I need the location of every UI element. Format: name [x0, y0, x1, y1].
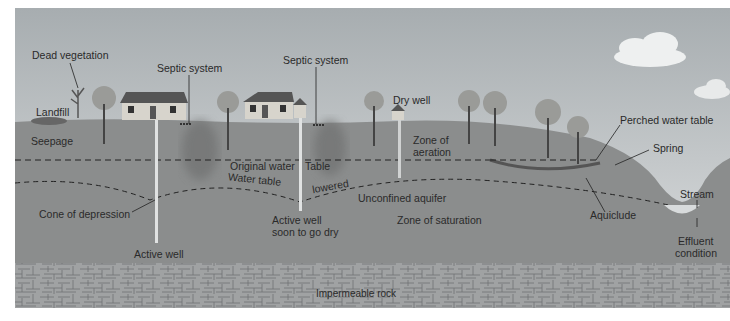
- house-icon: [120, 92, 188, 120]
- label-original-water-table-2: Table: [305, 160, 330, 172]
- label-zone-of-saturation: Zone of saturation: [397, 214, 482, 226]
- groundwater-diagram: Dead vegetation Landfill Seepage Septic …: [0, 0, 730, 321]
- label-impermeable-rock: Impermeable rock: [316, 288, 396, 300]
- label-active-well-dry-2: soon to go dry: [272, 226, 339, 238]
- label-septic-system-1: Septic system: [157, 62, 222, 74]
- label-dead-vegetation: Dead vegetation: [32, 49, 108, 61]
- label-spring: Spring: [653, 142, 683, 154]
- active-well-going-dry: [299, 108, 302, 211]
- impermeable-rock-layer: [15, 263, 730, 308]
- label-active-well: Active well: [134, 248, 184, 260]
- label-septic-system-2: Septic system: [283, 54, 348, 66]
- label-zone-of-aeration-2: aeration: [413, 146, 451, 158]
- label-zone-of-aeration-1: Zone of: [413, 134, 449, 146]
- label-effluent-1: Effluent: [678, 235, 713, 247]
- dry-well: [398, 112, 401, 178]
- label-effluent-2: condition: [675, 247, 717, 259]
- label-perched-water-table: Perched water table: [620, 114, 713, 126]
- label-cone-of-depression: Cone of depression: [39, 208, 130, 220]
- label-original-water-table-1: Original water: [230, 160, 295, 172]
- label-landfill: Landfill: [36, 106, 69, 118]
- active-well: [155, 110, 158, 243]
- label-unconfined-aquifer: Unconfined aquifer: [358, 192, 446, 204]
- label-dry-well: Dry well: [393, 94, 430, 106]
- diagram-canvas: [0, 0, 730, 321]
- label-stream: Stream: [680, 188, 714, 200]
- landfill: [31, 117, 67, 125]
- label-seepage: Seepage: [31, 135, 73, 147]
- label-active-well-dry-1: Active well: [272, 214, 322, 226]
- label-aquiclude: Aquiclude: [590, 209, 636, 221]
